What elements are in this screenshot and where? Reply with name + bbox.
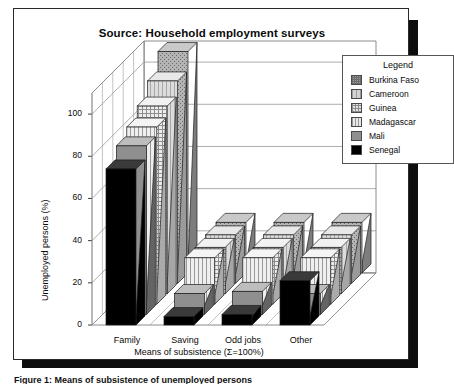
legend-label: Cameroon	[369, 89, 409, 99]
legend-swatch-light-grid	[351, 89, 362, 99]
legend-item-guinea: Guinea	[343, 101, 453, 115]
legend-item-senegal: Senegal	[343, 143, 453, 157]
legend-swatch-vertical-lines	[351, 117, 362, 127]
figure-shadow-bottom	[22, 360, 418, 368]
y-tick-label: 0	[58, 319, 82, 329]
figure-caption: Figure 1: Means of subsistence of unempl…	[14, 375, 434, 384]
y-axis-label: Unemployed persons (%)	[40, 199, 50, 301]
legend-label: Mali	[369, 131, 385, 141]
bar-senegal-odd-jobs	[222, 305, 261, 325]
legend-title: Legend	[343, 60, 453, 70]
legend-swatch-dense-dots	[351, 75, 362, 85]
legend-item-mali: Mali	[343, 129, 453, 143]
chart-frame: Source: Household employment surveys 020…	[13, 8, 409, 360]
legend-swatch-checker	[351, 103, 362, 113]
y-tick-label: 20	[58, 277, 82, 287]
y-tick-label: 40	[58, 235, 82, 245]
chart-legend: Legend Burkina FasoCameroonGuineaMadagas…	[342, 55, 454, 164]
legend-label: Guinea	[369, 103, 396, 113]
legend-label: Burkina Faso	[369, 75, 419, 85]
x-tick-label-other: Other	[266, 335, 336, 345]
legend-swatch-solid-black	[351, 145, 362, 155]
y-tick-label: 60	[58, 192, 82, 202]
y-tick-label: 100	[58, 108, 82, 118]
legend-label: Madagascar	[369, 117, 416, 127]
legend-item-madagascar: Madagascar	[343, 115, 453, 129]
legend-item-cameroon: Cameroon	[343, 87, 453, 101]
legend-rows: Burkina FasoCameroonGuineaMadagascarMali…	[343, 73, 453, 157]
legend-swatch-solid-grey	[351, 131, 362, 141]
legend-item-burkina-faso: Burkina Faso	[343, 73, 453, 87]
x-axis-label: Means of subsistence (Σ=100%)	[34, 347, 364, 357]
y-tick-label: 80	[58, 150, 82, 160]
legend-label: Senegal	[369, 145, 400, 155]
